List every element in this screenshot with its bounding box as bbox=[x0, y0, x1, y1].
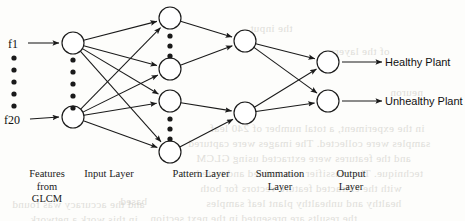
input-ellipsis-dot-2 bbox=[70, 81, 75, 86]
node-pattern-3 bbox=[159, 141, 181, 163]
pattern-ellipsis-dot-0-2 bbox=[167, 53, 172, 58]
node-pattern-2 bbox=[159, 90, 181, 112]
edge-pattern-to-summation-0 bbox=[181, 21, 233, 37]
caption-summation-layer: Summation Layer bbox=[240, 168, 320, 193]
pattern-ellipsis-dot-1-0 bbox=[167, 116, 172, 121]
node-pattern-0 bbox=[159, 7, 181, 29]
feature-ellipsis-dot-3 bbox=[11, 91, 16, 96]
input-ellipsis-dot-4 bbox=[70, 105, 75, 110]
edge-pattern-to-summation-3 bbox=[180, 119, 233, 147]
pattern-ellipsis-dot-1-1 bbox=[167, 126, 172, 131]
feature-label-last: f20 bbox=[4, 113, 20, 128]
edge-input-to-pattern-0 bbox=[84, 21, 157, 40]
feature-label-first: f1 bbox=[8, 37, 18, 52]
pattern-ellipsis-dot-0-1 bbox=[167, 43, 172, 48]
input-ellipsis-dot-1 bbox=[70, 69, 75, 74]
edge-summation-to-output-3 bbox=[256, 103, 315, 111]
edge-input-to-pattern-6 bbox=[84, 103, 157, 115]
feature-ellipsis-dot-4 bbox=[11, 103, 16, 108]
nodes-group bbox=[62, 7, 339, 163]
edge-feature-to-input-1 bbox=[30, 117, 59, 119]
caption-output-layer: Output Layer bbox=[320, 168, 382, 193]
output-label-unhealthy: Unhealthy Plant bbox=[385, 95, 463, 107]
input-ellipsis-dot-3 bbox=[70, 93, 75, 98]
edge-summation-to-output-2 bbox=[254, 69, 316, 107]
node-output-0 bbox=[317, 51, 339, 73]
output-label-healthy: Healthy Plant bbox=[385, 56, 450, 68]
edge-pattern-to-summation-2 bbox=[181, 103, 232, 111]
caption-input-layer: Input Layer bbox=[72, 168, 146, 181]
node-output-1 bbox=[317, 90, 339, 112]
input-ellipsis-dot-0 bbox=[70, 57, 75, 62]
feature-ellipsis-dot-1 bbox=[11, 67, 16, 72]
edge-summation-to-output-1 bbox=[254, 47, 317, 93]
edge-summation-to-output-0 bbox=[256, 44, 315, 59]
node-pattern-1 bbox=[159, 58, 181, 80]
pattern-ellipsis-dot-0-0 bbox=[167, 33, 172, 38]
feature-ellipsis-dot-2 bbox=[11, 79, 16, 84]
node-summation-1 bbox=[234, 102, 256, 124]
node-input-0 bbox=[62, 32, 84, 54]
feature-ellipsis-dot-0 bbox=[11, 55, 16, 60]
node-summation-0 bbox=[234, 30, 256, 52]
edge-pattern-to-summation-1 bbox=[180, 46, 232, 65]
caption-pattern-layer: Pattern Layer bbox=[158, 168, 244, 181]
pattern-ellipsis-dot-1-2 bbox=[167, 136, 172, 141]
figure-canvas: in the experiment, a total number of 240… bbox=[0, 0, 465, 221]
edge-input-to-pattern-5 bbox=[83, 75, 158, 112]
